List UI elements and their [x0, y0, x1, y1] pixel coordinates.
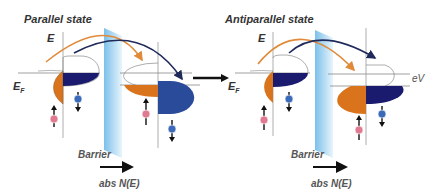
- fermi-level-label: EF: [228, 80, 240, 94]
- barrier-label: Barrier: [78, 149, 111, 160]
- antiparallel-panel: [235, 28, 410, 167]
- electron-up-icon: [260, 105, 268, 130]
- dos-axis-label: abs N(E): [311, 178, 352, 189]
- dos-axis-label: abs N(E): [99, 178, 140, 189]
- tmr-diagram: [0, 0, 435, 194]
- panel-title-antiparallel: Antiparallel state: [225, 13, 314, 25]
- electron-up-icon: [142, 98, 150, 125]
- spin-up-band-left: [53, 71, 63, 104]
- fermi-level-label: EF: [13, 80, 25, 94]
- spin-down-band-right: [158, 81, 194, 114]
- electron-up-icon: [50, 105, 58, 127]
- spin-down-band-left: [63, 73, 99, 86]
- electron-down-icon: [378, 106, 386, 127]
- electron-down-icon: [168, 120, 176, 142]
- energy-axis-label: E: [47, 32, 54, 44]
- spin-up-band-right: [124, 85, 158, 97]
- panel-title-parallel: Parallel state: [24, 13, 92, 25]
- tunnel-arrow-up: [46, 35, 142, 62]
- bias-label: eV: [412, 73, 424, 84]
- fermi-label-sub: F: [20, 87, 24, 94]
- fermi-label-sub: F: [235, 87, 239, 94]
- electron-down-icon: [285, 92, 293, 112]
- energy-axis-label: E: [258, 32, 265, 44]
- parallel-panel: [18, 28, 200, 167]
- electron-up-icon: [355, 115, 363, 140]
- electron-down-icon: [74, 92, 82, 112]
- barrier: [104, 28, 122, 158]
- barrier-label: Barrier: [291, 149, 324, 160]
